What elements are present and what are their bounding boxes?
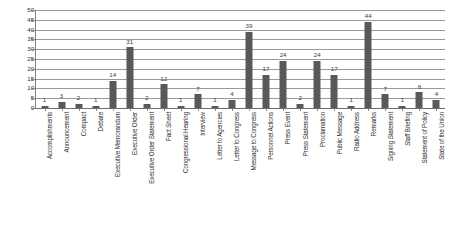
bar-value-label: 1: [179, 97, 182, 103]
bar-slot: 31: [121, 10, 138, 108]
bar-slot: 1: [172, 10, 189, 108]
x-axis-label-slot: Letter to Agencies: [206, 110, 223, 242]
x-axis-label-slot: Announcement: [53, 110, 70, 242]
bar-value-label: 17: [263, 66, 270, 72]
bar-slot: 3: [53, 10, 70, 108]
bar-slot: 2: [292, 10, 309, 108]
bar-value-label: 17: [331, 66, 338, 72]
x-axis-tick-mark: [215, 109, 216, 111]
x-axis-tick-mark: [300, 109, 301, 111]
x-axis-label-slot: Letter to Congress: [223, 110, 240, 242]
bar-value-label: 2: [145, 95, 148, 101]
bar[interactable]: [228, 100, 235, 108]
bar-value-label: 24: [280, 52, 287, 58]
bar[interactable]: [280, 61, 287, 108]
y-axis-tick-mark: [31, 88, 35, 89]
bar-value-label: 1: [213, 97, 216, 103]
x-axis-label-slot: Press Statement: [292, 110, 309, 242]
bar[interactable]: [382, 94, 389, 108]
bar-value-label: 31: [126, 39, 133, 45]
x-axis-tick-mark: [96, 109, 97, 111]
x-axis-label-slot: State of the Union: [428, 110, 445, 242]
bar[interactable]: [433, 100, 440, 108]
bar[interactable]: [331, 75, 338, 108]
x-axis-label-slot: Executive Order Statement: [138, 110, 155, 242]
bar-slot: 44: [360, 10, 377, 108]
x-axis-label-slot: Press Event: [275, 110, 292, 242]
x-axis-label-slot: Signing Statement: [377, 110, 394, 242]
x-axis-label-slot: Accomplishments: [36, 110, 53, 242]
bar[interactable]: [263, 75, 270, 108]
bar-slot: 14: [104, 10, 121, 108]
x-axis-tick-mark: [283, 109, 284, 111]
bar-value-label: 4: [230, 91, 233, 97]
bar-value-label: 1: [401, 97, 404, 103]
bar-slot: 1: [206, 10, 223, 108]
bar-value-label: 1: [43, 97, 46, 103]
bar-slot: 8: [411, 10, 428, 108]
bar-slot: 1: [87, 10, 104, 108]
plot-area: 132114312121714391724224171447184: [36, 10, 445, 108]
bar[interactable]: [416, 92, 423, 108]
bar-value-label: 3: [60, 93, 63, 99]
bar[interactable]: [109, 81, 116, 108]
x-axis-label-slot: Executive Memorandum: [104, 110, 121, 242]
x-axis-label-slot: Statement of Policy: [411, 110, 428, 242]
x-axis-label-slot: Proclamation: [309, 110, 326, 242]
bar-slot: 1: [343, 10, 360, 108]
x-axis-tick-mark: [402, 109, 403, 111]
y-axis-tick-mark: [31, 69, 35, 70]
y-axis-tick-mark: [31, 30, 35, 31]
bar[interactable]: [365, 22, 372, 108]
y-axis-tick-mark: [31, 20, 35, 21]
x-axis-tick-mark: [113, 109, 114, 111]
bar-value-label: 44: [365, 13, 372, 19]
bar-value-label: 4: [435, 91, 438, 97]
bar[interactable]: [246, 32, 253, 108]
x-axis-tick-mark: [164, 109, 165, 111]
bar-slot: 2: [138, 10, 155, 108]
x-axis-tick-mark: [368, 109, 369, 111]
bar-value-label: 12: [160, 76, 167, 82]
x-axis-label-slot: Compact: [70, 110, 87, 242]
x-axis-tick-mark: [130, 109, 131, 111]
x-axis-tick-mark: [198, 109, 199, 111]
x-axis-tick-mark: [232, 109, 233, 111]
x-axis-tick-mark: [249, 109, 250, 111]
bar-slot: 1: [36, 10, 53, 108]
x-axis-label-slot: Congressional Hearing: [172, 110, 189, 242]
bar-value-label: 1: [94, 97, 97, 103]
x-axis-line: [36, 108, 445, 109]
bar-slot: 24: [275, 10, 292, 108]
x-axis-tick-label: State of the Union: [439, 112, 446, 160]
y-axis-tick-mark: [31, 79, 35, 80]
bar-slot: 12: [155, 10, 172, 108]
bar[interactable]: [314, 61, 321, 108]
x-axis-tick-mark: [45, 109, 46, 111]
bar-chart: 50454035302520151050 1321143121217143917…: [0, 0, 449, 245]
x-axis-tick-mark: [334, 109, 335, 111]
bar-value-label: 7: [196, 86, 199, 92]
bar[interactable]: [126, 47, 133, 108]
x-axis-tick-mark: [351, 109, 352, 111]
bar[interactable]: [194, 94, 201, 108]
y-axis-tick-mark: [31, 10, 35, 11]
x-axis-label-slot: Executive Order: [121, 110, 138, 242]
x-axis-tick-mark: [181, 109, 182, 111]
y-axis-tick-mark: [31, 49, 35, 50]
y-axis-tick-mark: [31, 39, 35, 40]
bar[interactable]: [160, 84, 167, 108]
x-axis-label-slot: Public Message: [326, 110, 343, 242]
x-axis-tick-mark: [419, 109, 420, 111]
y-axis-tick-mark: [31, 59, 35, 60]
x-axis-label-slot: Radio Address: [343, 110, 360, 242]
x-axis-label-slot: Staff Briefing: [394, 110, 411, 242]
x-axis-tick-mark: [385, 109, 386, 111]
x-axis-label-slot: Personnel Actions: [258, 110, 275, 242]
bar-value-label: 2: [77, 95, 80, 101]
bar-slot: 2: [70, 10, 87, 108]
bar-value-label: 24: [314, 52, 321, 58]
bar-slot: 4: [223, 10, 240, 108]
x-axis-tick-mark: [317, 109, 318, 111]
bar-value-label: 14: [109, 72, 116, 78]
